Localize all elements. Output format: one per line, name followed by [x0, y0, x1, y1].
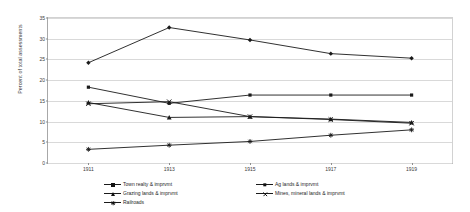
data-point: [248, 38, 252, 42]
legend-label: Railroads: [123, 200, 144, 205]
y-tick-label: 15: [39, 98, 45, 104]
series-2: [87, 86, 413, 105]
data-point: [328, 133, 333, 138]
legend-item[interactable]: Grazing lands & imprvmt: [104, 190, 256, 197]
legend-label: Mines, mineral lands & imprvmt: [275, 191, 345, 196]
legend-label: Town realty & imprvmt: [123, 182, 172, 187]
series-1: [86, 25, 414, 65]
series-line: [88, 103, 411, 123]
y-tick-label: 25: [39, 56, 45, 62]
series-line: [88, 28, 411, 63]
legend-label: Ag lands & imprvmt: [275, 182, 318, 187]
line-chart: Percent of total assessments 05101520253…: [0, 0, 470, 212]
data-point: [248, 93, 251, 96]
series-layer: [48, 18, 452, 163]
y-tick-label: 10: [39, 119, 45, 125]
data-point: [409, 56, 413, 60]
legend-marker-icon: [104, 181, 121, 188]
chart-legend: Town realty & imprvmtAg lands & imprvmtG…: [104, 180, 434, 207]
legend-item[interactable]: Mines, mineral lands & imprvmt: [256, 190, 434, 197]
legend-marker-icon: [104, 199, 121, 206]
y-tick-label: 0: [42, 160, 45, 166]
legend-marker-icon: [256, 181, 273, 188]
data-point: [167, 143, 172, 148]
data-point: [248, 139, 253, 144]
x-tick-label: 1917: [325, 166, 336, 172]
legend-marker-icon: [256, 190, 273, 197]
x-tick-label: 1915: [244, 166, 255, 172]
x-tick-label: 1919: [406, 166, 417, 172]
x-tick-label: 1911: [83, 166, 94, 172]
y-tick-label: 20: [39, 77, 45, 83]
data-point: [410, 93, 413, 96]
legend-marker-icon: [104, 190, 121, 197]
x-tick-label: 1913: [164, 166, 175, 172]
y-tick-label: 5: [42, 139, 45, 145]
data-point: [86, 61, 90, 65]
x-tick-mark: [88, 163, 89, 165]
y-tick-label: 35: [39, 15, 45, 21]
legend-item[interactable]: Town realty & imprvmt: [104, 181, 256, 188]
plot-area: 05101520253035 19111913191519171919: [47, 17, 453, 164]
series-5: [86, 127, 414, 151]
y-axis-title: Percent of total assessments: [17, 0, 23, 119]
legend-item[interactable]: Railroads: [104, 199, 256, 206]
legend-item[interactable]: Ag lands & imprvmt: [256, 181, 434, 188]
x-tick-mark: [169, 163, 170, 165]
x-tick-mark: [331, 163, 332, 165]
data-point: [167, 25, 171, 29]
series-4: [86, 99, 414, 125]
x-tick-mark: [250, 163, 251, 165]
data-point: [87, 86, 90, 89]
data-point: [329, 93, 332, 96]
data-point: [409, 127, 414, 132]
y-tick-label: 30: [39, 36, 45, 42]
data-point: [329, 51, 333, 55]
data-point: [86, 147, 91, 152]
legend-label: Grazing lands & imprvmt: [123, 191, 178, 196]
x-tick-mark: [412, 163, 413, 165]
